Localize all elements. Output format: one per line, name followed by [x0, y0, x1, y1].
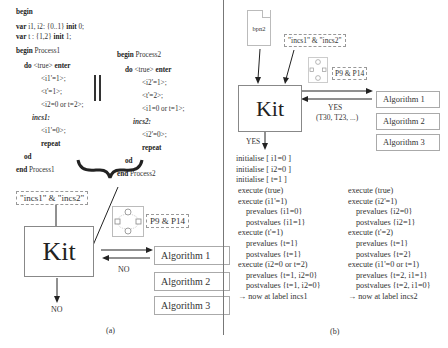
trace-line: prevalues {t=1} — [238, 239, 321, 250]
trace-line: execute (i2'=1) — [348, 197, 431, 208]
trace-line: prevalues {t=1, i2=0} — [238, 271, 321, 282]
trace-line: execute (i1'=1) — [238, 197, 321, 208]
trace-line: → now at label incs2 — [348, 292, 431, 303]
init-line: initialise [ i2=0 ] — [236, 165, 291, 176]
trace-line: → now at label incs1 — [238, 292, 321, 303]
petri-net-thumbnail — [308, 57, 328, 83]
trace-line: postvalues {i1=1} — [238, 218, 321, 229]
reply-label: YES — [328, 103, 342, 112]
algorithm-2-box: Algorithm 2 — [376, 113, 440, 130]
trace-line: postvalues {i2=1} — [348, 218, 431, 229]
petri-net-icon — [309, 58, 327, 82]
trace-line: execute (t'=1) — [238, 228, 321, 239]
trace-line: execute (i1'=0 or t=1) — [348, 260, 431, 271]
trace-line: prevalues {t=1} — [348, 239, 431, 250]
trace-line: execute (true) — [348, 186, 431, 197]
trace-process2: execute (true) execute (i2'=1) prevalues… — [348, 186, 431, 303]
output-label: YES — [246, 137, 260, 146]
trace-process1: execute (true) execute (i1'=1) prevalues… — [238, 186, 321, 303]
trace-line: prevalues {t=2, i1=1} — [348, 271, 431, 282]
trace-line: postvalues {t=1, i2=0} — [238, 281, 321, 292]
arrow-file-to-kit — [258, 49, 260, 79]
trace-line: postvalues {t=2} — [348, 250, 431, 261]
kit-box: Kit — [238, 85, 302, 132]
init-line: initialise [ i1=0 ] — [236, 154, 291, 165]
init-line: initialise [ t=1 ] — [236, 175, 291, 186]
algorithm-3-box: Algorithm 3 — [376, 134, 440, 151]
properties-box: P9 & P14 — [332, 67, 367, 80]
trace-line: prevalues {i1=0} — [238, 207, 321, 218]
trace-line: execute (t'=2) — [348, 228, 431, 239]
caption-b: (b) — [330, 327, 339, 336]
trace-line: prevalues {i2=0} — [348, 207, 431, 218]
trace-line: execute (true) — [238, 186, 321, 197]
arrow-labels-to-kit — [286, 50, 294, 79]
trace-line: execute (i2=0 or t=2) — [238, 260, 321, 271]
trace-line: postvalues {t=1} — [238, 250, 321, 261]
algorithm-1-box: Algorithm 1 — [376, 91, 440, 108]
trace-line: postvalues {t=2, i1=0} — [348, 281, 431, 292]
init-lines: initialise [ i1=0 ] initialise [ i2=0 ] … — [236, 154, 291, 186]
reply-detail: (T30, T23, ...) — [316, 113, 358, 122]
